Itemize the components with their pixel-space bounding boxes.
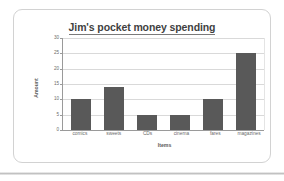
plot-area: Amount 051015202530 comicssweetsCDscinem… xyxy=(45,38,265,138)
y-axis-tick-label: 5 xyxy=(56,112,59,117)
x-axis-tick-label: magazines xyxy=(232,132,266,137)
y-axis-tick xyxy=(60,99,63,100)
gridline xyxy=(63,130,264,131)
bottom-divider xyxy=(0,172,284,175)
y-axis-tick-label: 15 xyxy=(54,82,59,87)
y-axis-tick-label: 10 xyxy=(54,97,59,102)
bar-slot xyxy=(97,38,130,130)
x-axis-title: Items xyxy=(63,142,266,148)
bar-slot xyxy=(197,38,230,130)
bar xyxy=(236,53,256,130)
bar xyxy=(137,115,157,130)
bar xyxy=(71,99,91,130)
y-axis-tick-label: 25 xyxy=(54,51,59,56)
x-axis-tick-labels: comicssweetsCDscinemafaresmagazines xyxy=(63,132,266,137)
x-axis-tick-label: comics xyxy=(63,132,97,137)
y-axis-title: Amount xyxy=(33,78,39,98)
x-axis-tick-label: CDs xyxy=(131,132,165,137)
plot-frame: 051015202530 xyxy=(62,38,265,130)
bar-slot xyxy=(64,38,97,130)
chart-card: Jim's pocket money spending Amount 05101… xyxy=(13,9,271,163)
y-axis-tick-label: 20 xyxy=(54,66,59,71)
chart-title: Jim's pocket money spending xyxy=(14,21,270,33)
bar-slot xyxy=(130,38,163,130)
y-axis-tick xyxy=(60,53,63,54)
y-axis-tick-label: 30 xyxy=(54,36,59,41)
bar-slot xyxy=(230,38,263,130)
bar-series xyxy=(64,38,263,130)
y-axis-tick xyxy=(60,38,63,39)
y-axis-tick xyxy=(60,69,63,70)
x-axis-tick-label: fares xyxy=(198,132,232,137)
y-axis-tick xyxy=(60,115,63,116)
y-axis-tick xyxy=(60,84,63,85)
y-axis-tick-label: 0 xyxy=(56,128,59,133)
y-axis-tick xyxy=(60,130,63,131)
x-axis-tick-label: sweets xyxy=(97,132,131,137)
bar xyxy=(203,99,223,130)
chart-screenshot: Jim's pocket money spending Amount 05101… xyxy=(0,0,284,181)
bar-slot xyxy=(164,38,197,130)
bar xyxy=(170,115,190,130)
chart-title-text: Jim's pocket money spending xyxy=(69,21,216,35)
bar xyxy=(104,87,124,130)
x-axis-tick-label: cinema xyxy=(164,132,198,137)
